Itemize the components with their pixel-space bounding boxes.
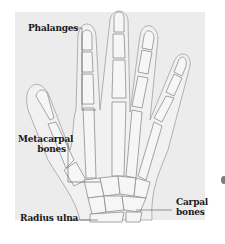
label-carpal-bones: Carpal bones [176,197,208,217]
label-carpal-line2: bones [176,207,208,217]
edge-marker-dot [221,176,225,184]
label-carpal-line1: Carpal [176,197,208,207]
label-metacarpal-line1: Metacarpal [18,134,66,144]
label-radius-ulna: Radius ulna [20,213,78,223]
label-metacarpal-bones: Metacarpal bones [18,134,66,154]
label-metacarpal-line2: bones [18,144,66,154]
label-phalanges: Phalanges [28,23,78,33]
